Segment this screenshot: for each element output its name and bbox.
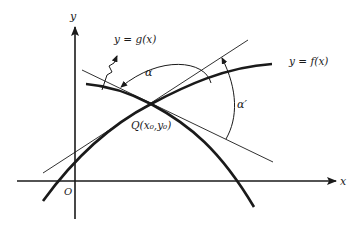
intersection-label: Q(x₀,y₀) xyxy=(131,119,171,132)
angle-alpha-label: α xyxy=(145,66,153,79)
diagram-canvas: y x O y = g(x) y = f(x) Q(x₀,y₀) α α′ xyxy=(0,0,360,226)
curve-g xyxy=(86,84,254,207)
tangent-line-g xyxy=(82,70,273,162)
curve-f-label: y = f(x) xyxy=(288,55,328,67)
y-axis-label: y xyxy=(69,10,77,23)
x-axis-label: x xyxy=(340,175,347,188)
curve-g-label: y = g(x) xyxy=(113,33,156,45)
origin-label: O xyxy=(64,186,72,197)
label-pointer-g xyxy=(102,56,117,90)
angle-alpha-prime-label: α′ xyxy=(237,98,247,111)
angle-alpha-arc xyxy=(121,64,211,87)
